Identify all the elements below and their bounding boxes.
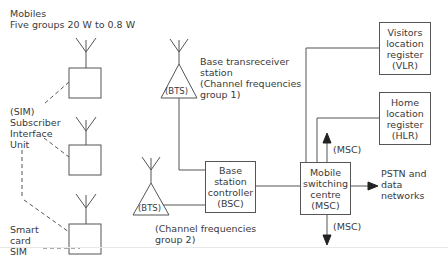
bsc-box: Base station controller (BSC) <box>205 161 256 213</box>
hlr-line: (HLR) <box>386 130 424 141</box>
sim-label-line: Interface <box>10 128 61 139</box>
bts-1-caption-line: (Channel frequencies <box>200 78 301 89</box>
bts-2-caption-line: group 2) <box>155 234 256 245</box>
pstn-label: PSTN and data networks <box>381 168 427 201</box>
msc-line: centre <box>303 189 348 200</box>
bts-2-label: (BTS) <box>138 203 161 213</box>
smart-card-line: card <box>10 235 39 246</box>
bts-2-antenna-icon <box>142 157 160 183</box>
mobile-1-box <box>69 68 101 98</box>
bts-1-label: (BTS) <box>165 86 188 96</box>
bts-1-caption-line: group 1) <box>200 89 301 100</box>
bts-1-caption-line: station <box>200 67 301 78</box>
hlr-line: location <box>386 108 424 119</box>
mobile-2-box <box>69 145 101 175</box>
bts-1-caption-line: Base transreceiver <box>200 56 301 67</box>
bts-1-caption: Base transreceiver station (Channel freq… <box>200 56 301 100</box>
mobile-3-antenna-icon <box>76 194 96 224</box>
mobile-2-antenna-icon <box>76 117 96 145</box>
sim-interface-label: (SIM) Subscriber Interface Unit <box>10 106 61 150</box>
title-line-2: Five groups 20 W to 0.8 W <box>10 19 135 30</box>
smart-card-label: Smart card SIM <box>10 224 39 257</box>
vlr-box: Visitors location register (VLR) <box>379 22 431 75</box>
pstn-line: networks <box>381 190 427 201</box>
bsc-line: station <box>208 176 253 187</box>
bsc-line: Base <box>208 165 253 176</box>
pstn-line: PSTN and <box>381 168 427 179</box>
msc-down-label: (MSC) <box>333 221 361 232</box>
bsc-line: controller <box>208 187 253 198</box>
sim-label-line: Subscriber <box>10 117 61 128</box>
mobile-3-box <box>69 224 101 254</box>
sim-label-line: Unit <box>10 139 61 150</box>
hlr-line: Home <box>386 97 424 108</box>
vlr-line: register <box>386 49 424 60</box>
title-line-1: Mobiles <box>10 8 135 19</box>
hlr-box: Home location register (HLR) <box>379 92 431 145</box>
vlr-line: location <box>386 38 424 49</box>
vlr-line: Visitors <box>386 27 424 38</box>
msc-line: Mobile <box>303 167 348 178</box>
sim-label-line: (SIM) <box>10 106 61 117</box>
smart-card-line: SIM <box>10 246 39 257</box>
msc-line: switching <box>303 178 348 189</box>
hlr-line: register <box>386 119 424 130</box>
msc-box: Mobile switching centre (MSC) <box>300 162 351 215</box>
diagram-title: Mobiles Five groups 20 W to 0.8 W <box>10 8 135 30</box>
msc-line: (MSC) <box>303 200 348 211</box>
bts-2-caption: (Channel frequencies group 2) <box>155 223 256 245</box>
pstn-line: data <box>381 179 427 190</box>
bts-1-antenna-icon <box>170 39 188 64</box>
divider <box>0 247 448 248</box>
mobile-1-antenna-icon <box>76 38 96 68</box>
msc-up-label: (MSC) <box>333 144 361 155</box>
smart-card-line: Smart <box>10 224 39 235</box>
bts-2-caption-line: (Channel frequencies <box>155 223 256 234</box>
vlr-line: (VLR) <box>386 60 424 71</box>
bsc-line: (BSC) <box>208 198 253 209</box>
